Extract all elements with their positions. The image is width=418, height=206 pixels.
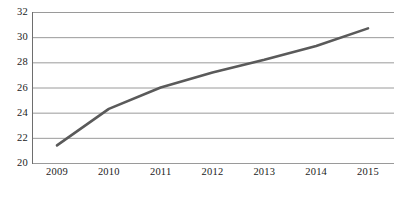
x-axis: 2009201020112012201320142015 [0,166,418,184]
y-tick-label: 26 [2,83,28,94]
line-chart: 20222426283032 2009201020112012201320142… [0,0,418,180]
y-tick-label: 24 [2,108,28,119]
y-axis: 20222426283032 [0,0,28,180]
y-tick-label: 30 [2,32,28,43]
y-tick-label: 32 [2,7,28,18]
y-tick-label: 22 [2,133,28,144]
x-tick-label: 2012 [191,166,235,178]
gridlines [32,13,394,164]
data-line [57,28,368,145]
x-tick-label: 2011 [139,166,183,178]
x-tick-label: 2015 [346,166,390,178]
x-tick-label: 2014 [294,166,338,178]
x-tick-label: 2013 [242,166,286,178]
x-tick-label: 2010 [87,166,131,178]
y-tick-label: 28 [2,57,28,68]
data-line-group [57,28,368,145]
x-tick-label: 2009 [35,166,79,178]
figure: 20222426283032 2009201020112012201320142… [0,0,418,206]
plot-canvas [0,0,418,180]
